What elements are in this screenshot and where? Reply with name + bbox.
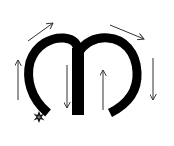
m-left-arch — [29, 38, 78, 113]
m-right-arch — [78, 38, 137, 113]
m-middle-stem — [72, 48, 84, 115]
letter-m-glyph — [29, 38, 137, 115]
stroke-order-diagram: Letter m stroke direction — [0, 0, 174, 146]
diagram-svg — [0, 0, 174, 146]
